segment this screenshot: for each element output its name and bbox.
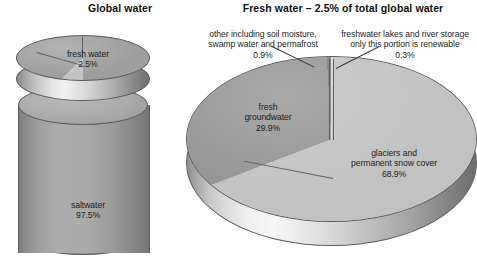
label-other-soil-swamp-permafrost: other including soil moisture, swamp wat… bbox=[188, 29, 338, 60]
label-fresh-groundwater: fresh groundwater 29.9% bbox=[222, 102, 314, 133]
pie-slices bbox=[186, 56, 477, 222]
right-chart-title: Fresh water – 2.5% of total global water bbox=[217, 2, 469, 14]
saltwater-cylinder-body bbox=[18, 105, 150, 253]
pie-top-face bbox=[186, 56, 477, 222]
left-chart-title: Global water bbox=[0, 2, 240, 14]
label-fresh-water: fresh water 2.5% bbox=[13, 49, 163, 70]
label-freshwater-lakes-rivers: freshwater lakes and river storage only … bbox=[330, 29, 477, 60]
figure-canvas: Global water Fresh water – 2.5% of total… bbox=[0, 0, 477, 274]
slice-divider-other bbox=[329, 59, 330, 140]
slice-divider-lakes bbox=[333, 59, 334, 140]
label-saltwater: saltwater 97.5% bbox=[13, 200, 163, 221]
label-glaciers-snow-cover: glaciers and permanent snow cover 68.9% bbox=[320, 148, 468, 179]
